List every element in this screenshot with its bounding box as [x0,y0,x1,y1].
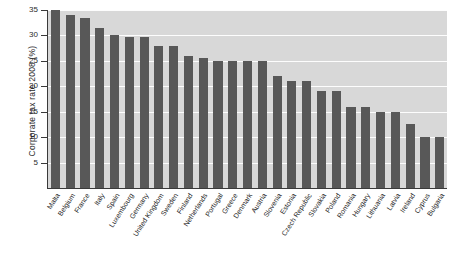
bar [125,37,134,188]
bar-slot [107,10,122,188]
y-axis-tick [41,10,47,11]
bar-slot [240,10,255,188]
x-axis-label-slot: France [78,190,93,250]
y-axis-tick-label: 25 [12,57,38,65]
bar-slot [299,10,314,188]
x-axis-label-slot: Malta [48,190,63,250]
bar-slot [358,10,373,188]
bar-slot [373,10,388,188]
bar [317,91,326,188]
x-axis-label-slot: Czech Republic [299,190,314,250]
bar [420,137,429,188]
bar [184,56,193,188]
x-axis-label-slot: Lithuania [373,190,388,250]
y-axis-tick [41,137,47,138]
bar [140,37,149,188]
x-axis-label-slot: Italy [92,190,107,250]
bar [287,81,296,188]
y-axis-tick-label: 35 [12,6,38,14]
bar [391,112,400,188]
bar [51,10,60,188]
x-axis-label-slot: Netherlands [196,190,211,250]
bar [228,61,237,188]
x-axis-label-slot: Denmark [240,190,255,250]
y-axis-tick-label: 30 [12,31,38,39]
x-axis-label-slot: Cyprus [417,190,432,250]
x-axis-label-slot: Belgium [63,190,78,250]
x-axis-label-slot: Poland [329,190,344,250]
bar [110,35,119,188]
bar [213,61,222,188]
bar-slot [78,10,93,188]
bar [199,58,208,188]
bar-slot [255,10,270,188]
bar [346,107,355,188]
bar-slot [403,10,418,188]
y-axis-tick-label: 5 [12,159,38,167]
x-axis-label-slot: Romania [344,190,359,250]
x-axis-label-slot: Austria [255,190,270,250]
bar-slot [122,10,137,188]
x-axis-label-slot: Ireland [403,190,418,250]
bar-slot [285,10,300,188]
bar [273,76,282,188]
bar-slot [196,10,211,188]
y-axis-tick [41,35,47,36]
bar-slot [137,10,152,188]
x-axis-label: Italy [93,192,106,207]
bar [154,46,163,188]
y-axis-tick [41,61,47,62]
x-axis-label-slot: Greece [225,190,240,250]
bar [95,28,104,188]
y-axis-tick-label: 15 [12,108,38,116]
bar-slot [314,10,329,188]
y-axis-tick-label: 20 [12,82,38,90]
x-axis-label-slot: Hungary [358,190,373,250]
x-axis-label-slot: Luxembourg [122,190,137,250]
x-axis-line [47,188,447,189]
chart-figure: Corporate tax rate 2008 (%) 510152025303… [0,0,470,266]
x-axis-label-slot: Bulgaria [432,190,447,250]
x-axis-label-slot: Slovakia [314,190,329,250]
x-axis-label-slot: Slovenia [270,190,285,250]
bar-series [48,10,447,188]
y-axis-tick [41,112,47,113]
bar-slot [63,10,78,188]
bar [258,61,267,188]
bar-slot [151,10,166,188]
bar [406,124,415,188]
bar-slot [329,10,344,188]
bar-slot [181,10,196,188]
y-axis-tick [41,163,47,164]
bar [376,112,385,188]
bar [302,81,311,188]
x-axis-label-slot: Sweden [166,190,181,250]
bar [332,91,341,188]
bar-slot [432,10,447,188]
bar-slot [418,10,433,188]
bar-slot [388,10,403,188]
x-axis-label-slot: Latvia [388,190,403,250]
bar [435,137,444,188]
bar-slot [166,10,181,188]
bar-slot [92,10,107,188]
x-axis-labels: MaltaBelgiumFranceItalySpainLuxembourgGe… [48,190,447,250]
bar-slot [211,10,226,188]
x-axis-label-slot: United Kingdom [151,190,166,250]
bar-slot [48,10,63,188]
x-axis-label-slot: Portugal [211,190,226,250]
bar [66,15,75,188]
bar [243,61,252,188]
plot-area [48,10,447,188]
bar-slot [225,10,240,188]
bar-slot [270,10,285,188]
bar-slot [344,10,359,188]
bar [361,107,370,188]
y-axis-tick [41,86,47,87]
bar [169,46,178,188]
bar [80,18,89,188]
y-axis-tick-label: 10 [12,133,38,141]
